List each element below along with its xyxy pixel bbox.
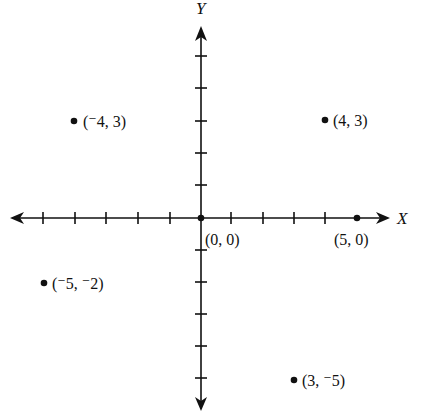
point-label: (⁻5, ⁻2)	[52, 275, 104, 293]
point-3-neg5	[291, 377, 298, 384]
point-label: (3, ⁻5)	[302, 372, 345, 390]
coordinate-plane: Y X (⁻4, 3) (4, 3) (0, 0) (5, 0) (⁻5, ⁻2…	[0, 0, 423, 419]
y-axis-label: Y	[196, 0, 207, 18]
point-neg5-neg2	[41, 280, 48, 287]
point-4-3	[322, 117, 329, 124]
point-5-0	[354, 215, 361, 222]
point-label: (0, 0)	[205, 231, 240, 249]
x-axis-label: X	[396, 209, 408, 228]
point-neg4-3	[71, 118, 78, 125]
point-label: (4, 3)	[333, 112, 368, 130]
point-0-0	[198, 215, 205, 222]
point-label: (⁻4, 3)	[83, 113, 126, 131]
point-label: (5, 0)	[334, 231, 369, 249]
